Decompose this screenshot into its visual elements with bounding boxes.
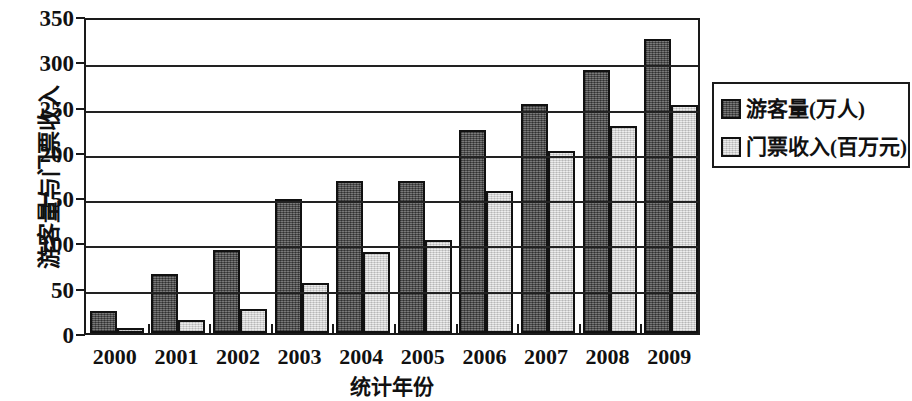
gridline	[86, 156, 698, 158]
x-axis-tick-label: 2000	[93, 344, 137, 370]
bar	[671, 105, 698, 333]
x-axis-tick-label: 2003	[278, 344, 322, 370]
y-axis-tick-mark	[76, 108, 85, 110]
x-axis-tick-mark	[579, 324, 581, 333]
bar	[117, 328, 144, 333]
x-axis-tick-mark	[394, 324, 396, 333]
y-axis-tick-label: 300	[12, 52, 74, 75]
y-axis-tick-label: 350	[12, 7, 74, 30]
x-axis-tick-mark	[332, 324, 334, 333]
y-axis-tick-mark	[76, 243, 85, 245]
y-axis-tick-label: 200	[12, 142, 74, 165]
y-axis-tick-label: 50	[12, 278, 74, 301]
bar	[90, 311, 117, 333]
x-axis-tick-label: 2005	[401, 344, 445, 370]
bar	[425, 240, 452, 333]
gridline	[86, 111, 698, 113]
bar	[336, 181, 363, 333]
y-axis-tick-label: 250	[12, 97, 74, 120]
bar	[486, 191, 513, 333]
x-axis-tick-mark	[640, 324, 642, 333]
bar	[459, 130, 486, 333]
bar	[644, 39, 671, 333]
x-axis-tick-mark	[209, 324, 211, 333]
y-axis-tick-mark	[76, 289, 85, 291]
legend: 游客量(万人) 门票收入(百万元)	[712, 82, 910, 168]
legend-item: 游客量(万人)	[721, 90, 903, 128]
bar	[275, 199, 302, 333]
y-axis-tick-mark	[76, 334, 85, 336]
x-axis-tick-label: 2004	[339, 344, 383, 370]
x-axis-tick-mark	[271, 324, 273, 333]
x-axis-tick-label: 2008	[586, 344, 630, 370]
y-axis-tick-mark	[76, 62, 85, 64]
x-axis-tick-label: 2009	[647, 344, 691, 370]
bar	[548, 151, 575, 333]
bar	[240, 309, 267, 333]
y-axis-tick-mark	[76, 17, 85, 19]
x-axis-tick-mark	[456, 324, 458, 333]
y-axis-tick-labels: 050100150200250300350	[12, 0, 74, 401]
x-axis-title: 统计年份	[84, 370, 700, 400]
x-axis-tick-label: 2001	[154, 344, 198, 370]
gridline	[86, 65, 698, 67]
x-axis-tick-mark	[517, 324, 519, 333]
gridline	[86, 292, 698, 294]
y-axis-tick-mark	[76, 153, 85, 155]
light-swatch-icon	[721, 137, 741, 157]
bar	[521, 104, 548, 333]
x-axis-tick-label: 2002	[216, 344, 260, 370]
bar	[302, 283, 329, 333]
legend-item-label: 游客量(万人)	[746, 99, 865, 120]
gridline	[86, 246, 698, 248]
x-axis-tick-mark	[148, 324, 150, 333]
bar	[151, 274, 178, 333]
bar	[398, 181, 425, 333]
bar-chart: 游客量与门票收入 050100150200250300350 统计年份 游客量(…	[0, 0, 912, 401]
y-axis-tick-label: 0	[12, 324, 74, 347]
dark-swatch-icon	[721, 99, 741, 119]
x-axis-tick-label: 2006	[462, 344, 506, 370]
bar	[178, 320, 205, 333]
gridline	[86, 201, 698, 203]
x-axis-tick-label: 2007	[524, 344, 568, 370]
y-axis-tick-mark	[76, 198, 85, 200]
y-axis-tick-label: 150	[12, 188, 74, 211]
legend-item-label: 门票收入(百万元)	[746, 137, 907, 158]
plot-area	[84, 18, 700, 335]
legend-item: 门票收入(百万元)	[721, 128, 903, 166]
y-axis-tick-label: 100	[12, 233, 74, 256]
